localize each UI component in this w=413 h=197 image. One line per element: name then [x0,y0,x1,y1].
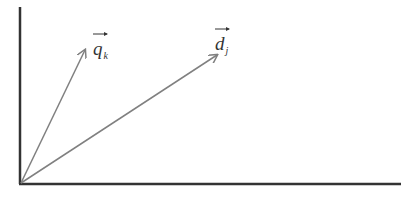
vector-subscript: j [226,45,229,56]
vector-label-d-j: dj [215,34,228,53]
vector-symbol: q [93,38,103,59]
vector-q-k [21,50,85,183]
vector-symbol: d [215,33,225,54]
vector-subscript: k [104,50,108,61]
vector-arrow-icon [215,26,231,32]
vector-diagram [0,0,413,197]
vector-label-q-k: qk [93,39,108,58]
vector-d-j [21,55,217,183]
vector-arrow-icon [93,31,109,37]
